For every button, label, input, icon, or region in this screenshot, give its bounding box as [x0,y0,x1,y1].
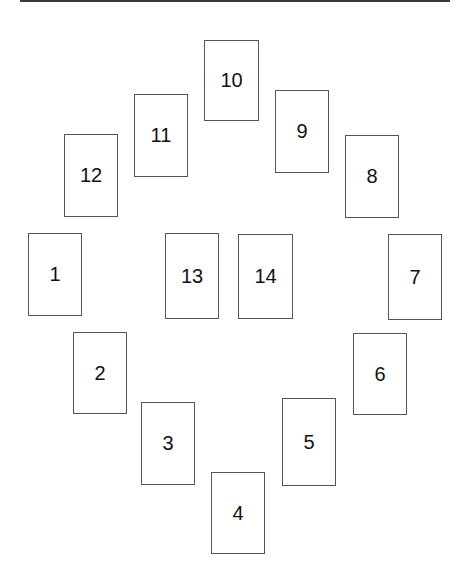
card-position-2: 2 [73,332,127,414]
card-position-11: 11 [134,94,188,177]
card-number: 12 [80,164,102,187]
card-number: 9 [296,120,307,143]
card-position-3: 3 [141,402,195,485]
card-position-5: 5 [282,398,336,486]
card-position-13: 13 [165,233,219,319]
card-position-8: 8 [345,135,399,218]
card-position-7: 7 [388,234,442,320]
card-position-10: 10 [204,40,259,121]
card-number: 11 [151,124,172,147]
card-number: 4 [232,502,243,525]
card-number: 6 [374,363,385,386]
card-position-6: 6 [353,333,407,415]
card-position-12: 12 [64,134,118,217]
card-number: 8 [366,165,377,188]
top-border-line [20,0,450,2]
card-position-14: 14 [238,234,293,319]
card-number: 5 [303,431,314,454]
card-number: 3 [162,432,173,455]
card-position-4: 4 [211,472,265,554]
card-number: 7 [409,266,420,289]
card-position-9: 9 [275,90,329,173]
card-position-1: 1 [28,233,82,316]
card-number: 1 [49,263,60,286]
card-number: 14 [254,265,276,288]
card-number: 2 [94,362,105,385]
card-number: 10 [220,69,242,92]
card-number: 13 [181,265,203,288]
